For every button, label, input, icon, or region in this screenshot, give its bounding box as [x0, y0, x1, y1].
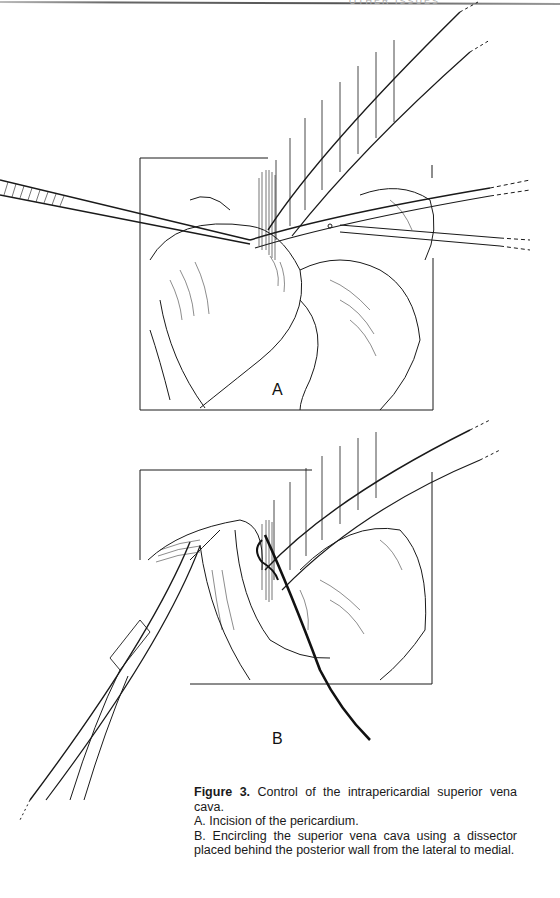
panel-label-b: B — [272, 730, 283, 748]
surgical-illustration-b — [0, 420, 560, 780]
figure-panel-a: A — [0, 0, 560, 420]
figure-panel-b: B — [0, 420, 560, 780]
caption-item-a: A. Incision of the pericardium. — [194, 814, 517, 829]
caption-item-b: B. Encircling the superior vena cava usi… — [194, 829, 517, 858]
surgical-illustration-a — [0, 0, 560, 420]
figure-caption: Figure 3. Control of the intrapericardia… — [194, 785, 517, 858]
caption-title-line: Figure 3. Control of the intrapericardia… — [194, 785, 517, 814]
figure-number: Figure 3. — [194, 785, 250, 799]
panel-label-a: A — [272, 381, 283, 399]
